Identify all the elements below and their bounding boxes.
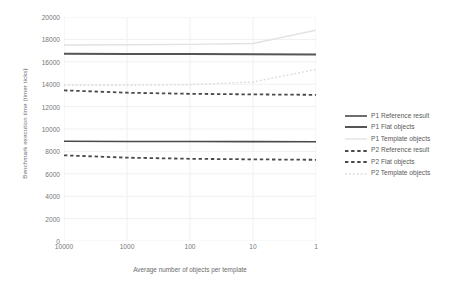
- x-axis-title: Average number of objects per template: [46, 266, 334, 273]
- y-tick-label: 2000: [45, 215, 60, 222]
- series-line-1: [64, 54, 316, 55]
- legend-swatch-line-icon: [345, 135, 367, 143]
- y-tick-label: 20000: [42, 14, 60, 21]
- chart-figure: Benchmark execution time (timer ticks) 0…: [0, 0, 455, 286]
- chart-legend: P1 Reference resultP1 Flat objectsP1 Tem…: [345, 110, 455, 180]
- legend-swatch-line-icon: [345, 170, 367, 178]
- legend-label: P1 Flat objects: [371, 124, 415, 131]
- x-tick-label: 1: [314, 243, 318, 250]
- y-tick-label: 16000: [42, 58, 60, 65]
- legend-label: P2 Flat objects: [371, 159, 415, 166]
- x-axis-tick-labels: 100001000100101: [64, 243, 316, 257]
- legend-item[interactable]: P1 Template objects: [345, 133, 455, 145]
- y-tick-label: 14000: [42, 81, 60, 88]
- legend-label: P1 Reference result: [371, 113, 429, 120]
- series-canvas: [64, 17, 316, 241]
- plot-area: [64, 17, 316, 241]
- y-tick-label: 12000: [42, 103, 60, 110]
- legend-item[interactable]: P1 Flat objects: [345, 122, 455, 134]
- legend-item[interactable]: P2 Reference result: [345, 145, 455, 157]
- legend-swatch-line-icon: [345, 123, 367, 131]
- x-tick-label: 1000: [120, 243, 135, 250]
- legend-label: P2 Reference result: [371, 147, 429, 154]
- y-tick-label: 4000: [45, 193, 60, 200]
- legend-label: P1 Template objects: [371, 136, 430, 143]
- legend-swatch-line-icon: [345, 147, 367, 155]
- y-axis-tick-labels: 0200040006000800010000120001400016000180…: [0, 17, 60, 241]
- legend-item[interactable]: P1 Reference result: [345, 110, 455, 122]
- x-tick-label: 100: [184, 243, 195, 250]
- y-tick-label: 8000: [45, 148, 60, 155]
- legend-item[interactable]: P2 Template objects: [345, 168, 455, 180]
- legend-swatch-line-icon: [345, 158, 367, 166]
- y-tick-label: 18000: [42, 36, 60, 43]
- x-tick-label: 10: [249, 243, 256, 250]
- legend-swatch-line-icon: [345, 112, 367, 120]
- legend-item[interactable]: P2 Flat objects: [345, 156, 455, 168]
- x-tick-label: 10000: [55, 243, 73, 250]
- y-tick-label: 10000: [42, 126, 60, 133]
- y-tick-label: 6000: [45, 170, 60, 177]
- legend-label: P2 Template objects: [371, 170, 430, 177]
